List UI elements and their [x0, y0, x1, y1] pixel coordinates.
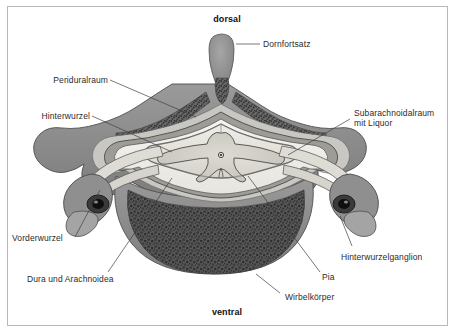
label-periduralraum: Periduralraum: [20, 75, 108, 86]
label-dornfortsatz: Dornfortsatz: [263, 39, 311, 50]
orientation-label-dorsal: dorsal: [197, 14, 257, 25]
label-wirbelkoerper: Wirbelkörper: [285, 292, 334, 303]
label-subarachnoidalraum-line1: Subarachnoidalraum: [354, 108, 434, 119]
label-subarachnoidalraum-line2: mit Liquor: [354, 118, 392, 129]
leader-wirbelkoerper: [256, 274, 280, 293]
right-foramen-highlight: [344, 200, 348, 203]
label-hinterwurzelganglion: Hinterwurzelganglion: [341, 252, 422, 263]
right-anterior-tubercle: [344, 211, 376, 237]
left-vertebral-foramen: [92, 199, 104, 209]
label-vorderwurzel: Vorderwurzel: [12, 233, 63, 244]
label-hinterwurzel: Hinterwurzel: [20, 111, 90, 122]
orientation-label-ventral: ventral: [197, 307, 257, 318]
label-dura-und-arachnoidea: Dura und Arachnoidea: [27, 274, 114, 285]
figure-root: dorsal ventral Dornfortsatz Periduralrau…: [0, 0, 457, 334]
right-vertebral-foramen: [338, 199, 350, 209]
central-canal-lumen: [220, 154, 222, 156]
label-pia: Pia: [322, 272, 335, 283]
